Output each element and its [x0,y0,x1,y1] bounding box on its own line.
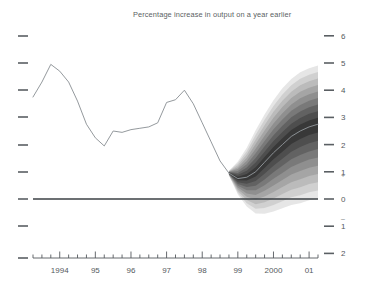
left-axis-ticks [18,36,28,258]
x-axis-label: 95 [91,266,100,275]
y-axis-label: 3 [341,113,346,122]
y-axis-label: 2 [341,141,346,150]
fan-chart-figure: Percentage increase in output on a year … [0,0,373,286]
y-axis-label: 6 [341,32,346,41]
chart-canvas: 19949596979899200001 654321012 + – [0,0,373,286]
x-axis-label: 96 [127,266,136,275]
x-axis-label: 98 [198,266,207,275]
x-axis-label: 99 [233,266,242,275]
y-axis-label: 1 [341,222,346,231]
x-axis-tick-labels: 19949596979899200001 [51,266,314,275]
x-axis-label: 01 [305,266,314,275]
right-axis-tick-labels: 654321012 [341,32,346,259]
y-axis-label: 5 [341,59,346,68]
right-axis-ticks [324,36,334,254]
y-axis-label: 2 [341,249,346,258]
y-axis-label: 0 [341,195,346,204]
x-axis-label: 1994 [51,266,69,275]
x-axis-label: 2000 [265,266,283,275]
y-axis-label: 4 [341,86,346,95]
negative-sign-label: – [341,215,345,222]
x-axis [33,252,318,259]
fan-probability-bands [229,65,318,213]
x-axis-label: 97 [162,266,171,275]
positive-sign-label: + [341,172,345,179]
